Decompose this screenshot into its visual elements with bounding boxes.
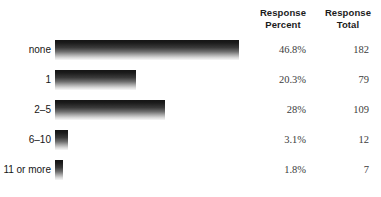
- bar-track: [55, 70, 136, 90]
- category-label: 11 or more: [0, 160, 51, 180]
- bar: [55, 100, 165, 120]
- category-label: 1: [0, 70, 51, 90]
- bar-track: [55, 100, 165, 120]
- value-response-total: 7: [310, 160, 369, 180]
- column-header-response-percent-line1: Response: [252, 7, 314, 19]
- column-header-response-percent-line2: Percent: [252, 19, 314, 31]
- value-response-percent: 20.3%: [244, 70, 306, 90]
- chart-row: none 46.8% 182: [0, 40, 381, 60]
- value-response-percent: 46.8%: [244, 40, 306, 60]
- value-response-percent: 3.1%: [244, 130, 306, 150]
- bar: [55, 130, 68, 150]
- column-header-response-total: Response Total: [318, 7, 378, 30]
- category-label: none: [0, 40, 51, 60]
- value-response-percent: 1.8%: [244, 160, 306, 180]
- bar-track: [55, 160, 63, 180]
- column-header-response-total-line1: Response: [318, 7, 378, 19]
- category-label: 6–10: [0, 130, 51, 150]
- bar: [55, 160, 63, 180]
- value-response-total: 79: [310, 70, 369, 90]
- value-response-percent: 28%: [244, 100, 306, 120]
- column-header-response-percent: Response Percent: [252, 7, 314, 30]
- bar-track: [55, 130, 68, 150]
- value-response-total: 109: [310, 100, 369, 120]
- bar: [55, 70, 136, 90]
- chart-row: 6–10 3.1% 12: [0, 130, 381, 150]
- bar: [55, 40, 239, 60]
- chart-row: 2–5 28% 109: [0, 100, 381, 120]
- survey-response-bar-chart: Response Percent Response Total none 46.…: [0, 0, 381, 197]
- column-header-response-total-line2: Total: [318, 19, 378, 31]
- bar-track: [55, 40, 239, 60]
- value-response-total: 182: [310, 40, 369, 60]
- category-label: 2–5: [0, 100, 51, 120]
- chart-row: 1 20.3% 79: [0, 70, 381, 90]
- value-response-total: 12: [310, 130, 369, 150]
- chart-row: 11 or more 1.8% 7: [0, 160, 381, 180]
